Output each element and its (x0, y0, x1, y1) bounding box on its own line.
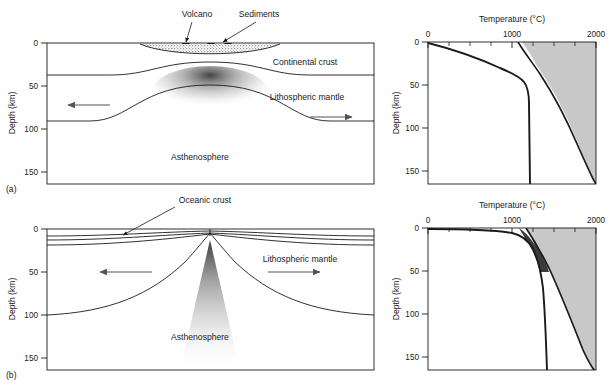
chart-ytick-label-0-a: 0 (414, 38, 419, 47)
chart-ytick-label-150-a: 150 (405, 167, 419, 176)
ytick-label-150-a: 150 (24, 168, 38, 177)
ytick-label-100-a: 100 (24, 125, 38, 134)
panel-b-y-axis-title: Depth (km) (7, 278, 17, 321)
asthenosphere-label-a: Asthenosphere (171, 152, 229, 162)
xtick-label-2000-b: 2000 (587, 216, 606, 225)
chart-a-title: Temperature (°C) (479, 14, 545, 24)
xtick-label-0-a: 0 (426, 30, 431, 39)
xtick-label-0-b: 0 (426, 216, 431, 225)
ytick-label-50-b: 50 (29, 268, 39, 277)
ytick-label-50-a: 50 (29, 82, 39, 91)
xtick-label-1000-b: 1000 (503, 216, 522, 225)
lithospheric-mantle-label-b: Lithospheric mantle (263, 254, 338, 264)
xtick-label-2000-a: 2000 (587, 30, 606, 39)
panel-a-y-axis-title: Depth (km) (7, 92, 17, 135)
chart-ytick-label-50-b: 50 (410, 267, 420, 276)
chart-ytick-label-50-a: 50 (410, 81, 420, 90)
chart-ytick-label-150-b: 150 (405, 353, 419, 362)
panel-a-label: (a) (6, 184, 17, 194)
ytick-label-0-b: 0 (33, 225, 38, 234)
volcano-label: Volcano (182, 9, 213, 19)
asthenosphere-label-b: Asthenosphere (171, 332, 229, 342)
chart-b-title: Temperature (°C) (479, 200, 545, 210)
panel-b-label: (b) (6, 370, 17, 380)
figure-root: Volcano Sediments 0 50 (0, 0, 609, 391)
oceanic-crust-label: Oceanic crust (179, 195, 232, 205)
figure-svg: Volcano Sediments 0 50 (0, 0, 609, 391)
lithospheric-mantle-label-a: Lithospheric mantle (270, 92, 345, 102)
chart-ytick-label-100-b: 100 (405, 310, 419, 319)
continental-crust-label: Continental crust (273, 57, 338, 67)
sediments-label: Sediments (239, 9, 280, 19)
chart-b-y-axis-title: Depth (km) (391, 278, 401, 321)
ytick-label-100-b: 100 (24, 311, 38, 320)
xtick-label-1000-a: 1000 (503, 30, 522, 39)
chart-ytick-label-0-b: 0 (414, 224, 419, 233)
chart-ytick-label-100-a: 100 (405, 124, 419, 133)
ytick-label-0-a: 0 (33, 39, 38, 48)
ytick-label-150-b: 150 (24, 354, 38, 363)
chart-a-y-axis-title: Depth (km) (391, 92, 401, 135)
melt-stipple-a (152, 66, 268, 118)
